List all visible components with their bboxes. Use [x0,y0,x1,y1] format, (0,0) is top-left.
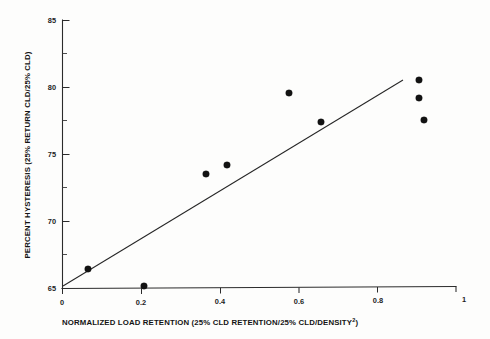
scatter-plot: 85 80 75 70 65 0 0.2 0.4 0.6 0.8 1 [0,0,490,339]
y-tick-label-80: 80 [48,83,56,92]
x-axis-title: NORMALIZED LOAD RETENTION (25% CLD RETEN… [62,317,358,327]
x-tick-label-0-2: 0.2 [136,298,146,307]
data-point [141,283,148,290]
x-tick-label-1: 1 [462,295,466,304]
data-point [85,266,92,273]
data-point-group [85,77,428,290]
data-point [224,162,231,169]
y-axis-title-group: PERCENT HYSTERESIS (25% RETURN CLD/25% C… [23,51,32,258]
x-tick-label-0: 0 [60,298,64,307]
x-axis-title-main: NORMALIZED LOAD RETENTION (25% CLD RETEN… [62,318,353,327]
axes-spines [62,20,456,289]
x-axis-title-tail: ) [355,318,358,327]
x-tick-label-0-4: 0.4 [215,297,226,306]
data-point [416,95,423,102]
x-axis-spine [62,287,456,289]
y-tick-label-65: 65 [48,284,56,293]
y-tick-label-75: 75 [48,150,56,159]
x-tick-label-0-8: 0.8 [373,296,383,305]
x-tick-label-0-6: 0.6 [294,297,304,306]
data-point [416,77,423,84]
x-axis-title-group: NORMALIZED LOAD RETENTION (25% CLD RETEN… [62,317,358,327]
y-tick-label-85: 85 [48,16,56,25]
data-point [421,117,428,124]
x-axis-tick-labels: 0 0.2 0.4 0.6 0.8 1 [60,295,466,307]
y-axis-tick-labels: 85 80 75 70 65 [48,16,56,293]
trend-line-group [63,80,403,286]
regression-line [63,80,403,286]
figure-canvas: 85 80 75 70 65 0 0.2 0.4 0.6 0.8 1 [0,0,490,339]
data-point [203,171,210,178]
y-axis-title: PERCENT HYSTERESIS (25% RETURN CLD/25% C… [23,51,32,258]
data-point [318,119,325,126]
y-axis-ticks [63,21,70,289]
y-tick-label-70: 70 [48,217,56,226]
data-point [286,90,293,97]
